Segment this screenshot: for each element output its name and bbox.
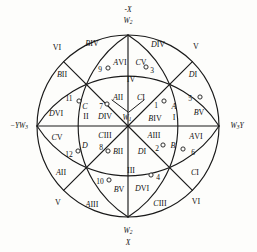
roman-numeral: IV xyxy=(153,114,161,123)
roman-numeral: VI xyxy=(194,132,202,141)
tick-marker-9 xyxy=(106,66,110,70)
inner-label-i-ciii: CIII xyxy=(98,132,111,140)
outer-label-o-div: DIV xyxy=(151,41,165,49)
tick-number-2: 2 xyxy=(155,145,159,153)
italic-letter: B xyxy=(171,141,176,150)
outer-label-o-bii: BII xyxy=(57,71,67,79)
roman-numeral: III xyxy=(90,200,98,209)
tick-number-5: 5 xyxy=(188,95,192,103)
diagram-svg xyxy=(0,0,257,252)
axis-label-right: W3Y xyxy=(230,122,243,130)
tick-number-12: 12 xyxy=(65,151,73,159)
outer-label-o-aiii: AIII xyxy=(86,201,99,209)
center-label: W1 xyxy=(123,114,132,122)
inner-label-i-cv: CV xyxy=(135,59,146,67)
roman-numeral: I xyxy=(144,147,147,156)
roman-numeral: IV xyxy=(90,39,98,48)
outer-label-o-ci: CI xyxy=(191,169,199,177)
inner-label-i-aiii: AIII xyxy=(148,132,161,140)
outer-label-o-avi-r: AVI xyxy=(189,133,202,141)
roman-numeral: II xyxy=(62,70,67,79)
roman-numeral: II xyxy=(61,168,66,177)
inner-label-i-a: A xyxy=(172,103,177,111)
outer-label-o-v-bl: V xyxy=(55,199,61,207)
outer-label-o-vi-tl: VI xyxy=(53,44,61,52)
inner-label-i-di: DI xyxy=(138,148,146,156)
outer-label-o-ciii-br: CIII xyxy=(153,200,166,208)
roman-numeral: VI xyxy=(55,109,63,118)
axis-label-top-w2: W2 xyxy=(124,17,133,25)
outer-label-o-bv: BV xyxy=(194,109,205,117)
tick-marker-12 xyxy=(76,149,80,153)
tick-number-11: 11 xyxy=(65,95,72,103)
roman-numeral: V xyxy=(57,133,63,142)
roman-numeral: I xyxy=(142,93,145,102)
tick-number-10: 10 xyxy=(96,178,104,186)
roman-numeral: VI xyxy=(141,184,149,193)
tick-marker-group xyxy=(76,65,202,182)
tick-marker-11 xyxy=(77,99,81,103)
tick-marker-8 xyxy=(106,149,110,153)
inner-label-i-iv: IV xyxy=(127,76,135,84)
roman-numeral: VI xyxy=(118,58,126,67)
roman-numeral: V xyxy=(199,108,205,117)
roman-numeral: III xyxy=(152,131,160,140)
inner-label-i-bv: BV xyxy=(114,186,125,194)
axis-label-top-x: -X xyxy=(124,6,131,14)
inner-label-i-c: C xyxy=(82,103,87,111)
inner-label-i-ci: CI xyxy=(137,94,145,102)
tick-number-7: 7 xyxy=(99,103,103,111)
tick-number-6: 6 xyxy=(191,149,195,157)
roman-numeral: I xyxy=(195,70,198,79)
inner-label-i-b: B xyxy=(171,142,176,150)
roman-numeral: II xyxy=(118,147,123,156)
inner-label-i-bii: BII xyxy=(113,148,123,156)
inner-label-i-i: I xyxy=(173,114,176,122)
italic-letter: D xyxy=(82,141,88,150)
roman-numeral: III xyxy=(159,199,167,208)
outer-label-o-di: DI xyxy=(189,71,197,79)
outer-label-o-biv: BIV xyxy=(85,40,98,48)
tick-number-8: 8 xyxy=(99,144,103,152)
tick-marker-2 xyxy=(161,143,165,147)
outer-label-o-cv-l: CV xyxy=(51,134,62,142)
tick-marker-1 xyxy=(162,99,166,103)
inner-label-i-div: DIV xyxy=(98,113,112,121)
inner-label-i-dvi: DVI xyxy=(135,185,149,193)
axis-label-left: −YW3 xyxy=(10,122,28,130)
figure-canvas: -X W2 W2 X −YW3 W3Y W1 VIBIVDIVVBIIDIDVI… xyxy=(0,0,257,252)
outer-label-o-vi-br: VI xyxy=(192,198,200,206)
tick-number-9: 9 xyxy=(98,66,102,74)
roman-numeral: V xyxy=(141,58,147,67)
roman-numeral: IV xyxy=(157,40,165,49)
roman-numeral: II xyxy=(118,93,123,102)
outer-label-o-v-tr: V xyxy=(193,43,199,51)
roman-numeral: V xyxy=(119,185,125,194)
tick-marker-5 xyxy=(198,95,202,99)
tick-number-4: 4 xyxy=(156,174,160,182)
axis-label-bottom-x: X xyxy=(126,239,131,247)
roman-numeral: IV xyxy=(104,112,112,121)
tick-marker-10 xyxy=(107,178,111,182)
roman-numeral: I xyxy=(196,168,199,177)
inner-label-i-aii: AII xyxy=(113,94,123,102)
tick-number-3: 3 xyxy=(150,67,154,75)
roman-numeral: III xyxy=(104,131,112,140)
italic-letter: A xyxy=(172,102,177,111)
italic-letter: C xyxy=(82,102,87,111)
inner-label-i-iii: III xyxy=(127,167,135,175)
inner-label-i-avi: AVI xyxy=(113,59,126,67)
tick-marker-7 xyxy=(105,102,109,106)
inner-label-i-ii: II xyxy=(83,113,88,121)
inner-label-i-d: D xyxy=(82,142,88,150)
inner-label-i-biv: BIV xyxy=(148,115,161,123)
outer-label-o-aii: AII xyxy=(56,169,66,177)
tick-marker-6 xyxy=(181,147,185,151)
tick-number-1: 1 xyxy=(154,102,158,110)
tick-marker-4 xyxy=(149,173,153,177)
outer-label-o-dvi: DVI xyxy=(49,110,63,118)
axis-label-bottom-w2: W2 xyxy=(124,227,133,235)
